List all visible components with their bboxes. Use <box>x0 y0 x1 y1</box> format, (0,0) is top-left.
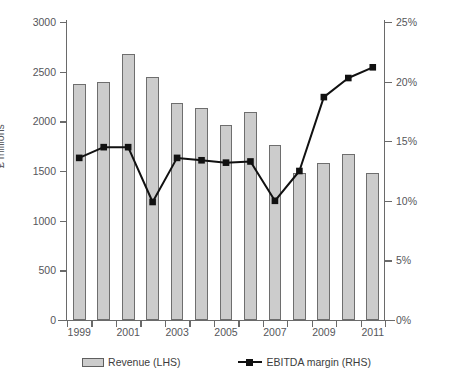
legend-item-revenue: Revenue (LHS) <box>82 356 180 368</box>
y-axis-right-tick-label: 5% <box>396 254 411 266</box>
y-axis-right-tick <box>385 260 392 261</box>
chart-legend: Revenue (LHS) EBITDA margin (RHS) <box>0 352 453 372</box>
y-axis-right-tick-label: 20% <box>396 76 417 88</box>
legend-label-revenue: Revenue (LHS) <box>108 356 180 368</box>
y-axis-title: £ millions <box>0 124 6 168</box>
bar <box>97 82 110 320</box>
y-axis-left-tick <box>60 121 67 122</box>
x-axis-line <box>58 320 395 321</box>
bar <box>122 54 135 320</box>
bar <box>146 77 159 320</box>
y-axis-left-tick-label: 1500 <box>33 165 56 177</box>
y-axis-right-tick <box>385 82 392 83</box>
bar <box>342 154 355 320</box>
y-axis-left-tick <box>60 72 67 73</box>
x-axis-tick-label: 2009 <box>312 326 335 338</box>
bar <box>171 103 184 320</box>
x-axis-tick-label: 2001 <box>116 326 139 338</box>
x-axis-tick <box>140 321 141 327</box>
y-axis-left-tick <box>60 22 67 23</box>
x-axis-tick-label: 1999 <box>68 326 91 338</box>
bar <box>195 108 208 320</box>
bar-swatch-icon <box>82 358 104 367</box>
line-marker-swatch-icon <box>238 358 262 367</box>
y-axis-left-tick-label: 1000 <box>33 215 56 227</box>
x-axis-tick-label: 2011 <box>361 326 384 338</box>
x-axis-tick <box>238 321 239 327</box>
x-axis-tick-label: 2005 <box>214 326 237 338</box>
bar <box>244 112 257 320</box>
y-axis-right-tick-label: 15% <box>396 135 417 147</box>
bar <box>317 163 330 320</box>
y-axis-left-tick <box>60 171 67 172</box>
y-axis-left-tick <box>60 320 67 321</box>
y-axis-left-tick-label: 3000 <box>33 16 56 28</box>
line-marker <box>369 64 376 71</box>
x-axis-tick <box>385 321 386 327</box>
x-axis-tick-label: 2007 <box>263 326 286 338</box>
y-axis-right-tick-label: 25% <box>396 16 417 28</box>
y-axis-left-tick-label: 2500 <box>33 66 56 78</box>
y-axis-left-tick-label: 0 <box>50 314 56 326</box>
y-axis-right-tick <box>385 22 392 23</box>
y-axis-left-tick-label: 2000 <box>33 115 56 127</box>
x-axis-tick <box>189 321 190 327</box>
x-axis-tick-label: 2003 <box>165 326 188 338</box>
line-marker <box>321 94 328 101</box>
y-axis-left-tick-label: 500 <box>38 264 56 276</box>
legend-item-ebitda-margin: EBITDA margin (RHS) <box>238 356 370 368</box>
chart-container: £ millions Revenue (LHS) EBITDA margin (… <box>0 0 453 378</box>
bar <box>220 125 233 320</box>
x-axis-tick <box>287 321 288 327</box>
bar <box>293 173 306 320</box>
y-axis-right-tick-label: 10% <box>396 195 417 207</box>
bar <box>366 173 379 320</box>
bar <box>73 84 86 320</box>
line-marker <box>345 75 352 82</box>
y-axis-right-tick <box>385 201 392 202</box>
y-axis-right-tick <box>385 141 392 142</box>
x-axis-tick <box>336 321 337 327</box>
legend-label-ebitda-margin: EBITDA margin (RHS) <box>266 356 370 368</box>
y-axis-right-line <box>384 20 385 321</box>
bar <box>269 145 282 320</box>
y-axis-left-tick <box>60 270 67 271</box>
x-axis-tick <box>91 321 92 327</box>
y-axis-left-tick <box>60 221 67 222</box>
y-axis-right-tick-label: 0% <box>396 314 411 326</box>
